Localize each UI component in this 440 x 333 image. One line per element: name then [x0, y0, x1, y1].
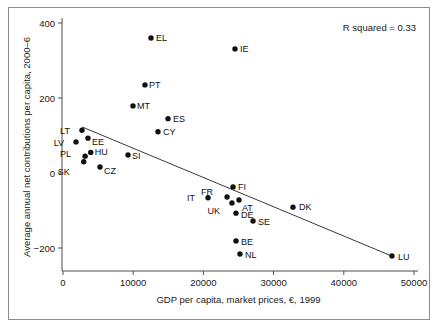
x-axis-tick-label: 40000 — [331, 277, 357, 288]
data-point[interactable]: ES — [165, 114, 185, 124]
data-point-label: PL — [60, 149, 71, 159]
data-point-label: BE — [241, 237, 253, 247]
data-point-marker[interactable] — [250, 218, 255, 223]
data-point-label: FR — [201, 187, 213, 197]
data-point-marker[interactable] — [130, 103, 135, 108]
data-point[interactable]: HU — [88, 147, 108, 157]
data-point[interactable]: CZ — [97, 164, 116, 176]
r-squared-annotation: R squared = 0.33 — [343, 22, 416, 33]
data-point-marker[interactable] — [232, 46, 237, 51]
y-axis-title: Average annual net contributions per cap… — [21, 37, 32, 257]
data-point-label: SE — [258, 217, 270, 227]
data-point-label: EE — [92, 137, 104, 147]
data-point[interactable]: EL — [148, 33, 167, 43]
x-axis-tick-label: 0 — [60, 277, 65, 288]
data-point-label: HU — [95, 147, 108, 157]
data-point-label: UK — [207, 206, 220, 216]
data-point-marker[interactable] — [237, 251, 242, 256]
data-point[interactable]: BE — [233, 237, 253, 247]
data-point-marker[interactable] — [125, 152, 130, 157]
y-axis-tick-label: −200 — [34, 243, 55, 254]
data-point-label: ES — [173, 114, 185, 124]
y-axis-tick-label: 200 — [39, 93, 55, 104]
x-axis-tick-label: 30000 — [260, 277, 286, 288]
data-point-label: IT — [187, 193, 196, 203]
data-point-label: SK — [58, 167, 70, 177]
data-point-marker[interactable] — [165, 116, 170, 121]
data-point-marker[interactable] — [81, 159, 86, 164]
data-point-marker[interactable] — [82, 153, 87, 158]
x-axis-tick-label: 50000 — [401, 277, 427, 288]
data-point-marker[interactable] — [229, 200, 234, 205]
data-point-marker[interactable] — [236, 197, 241, 202]
y-axis-tick-label: 0 — [50, 168, 55, 179]
scatter-plot: −200020040001000020000300004000050000GDP… — [0, 0, 440, 333]
data-point[interactable]: LU — [389, 252, 409, 262]
data-point-marker[interactable] — [85, 135, 90, 140]
data-point-label: LT — [60, 126, 70, 136]
data-point-label: DK — [299, 202, 312, 212]
data-point[interactable]: NL — [237, 250, 256, 260]
data-point[interactable]: LT — [60, 126, 85, 136]
data-point[interactable]: SI — [125, 151, 140, 161]
data-point-label: PT — [149, 80, 161, 90]
data-point-marker[interactable] — [389, 253, 394, 258]
y-axis-tick-label: 400 — [39, 18, 55, 29]
data-point-label: EL — [156, 33, 167, 43]
data-point[interactable]: SE — [250, 217, 270, 227]
data-point-marker[interactable] — [97, 164, 102, 169]
data-point-marker[interactable] — [79, 128, 84, 133]
data-point-marker[interactable] — [233, 210, 238, 215]
data-point-label: NL — [245, 250, 257, 260]
figure-container: −200020040001000020000300004000050000GDP… — [0, 0, 440, 333]
data-point-label: CZ — [104, 166, 116, 176]
data-point-label: CY — [163, 127, 176, 137]
data-point[interactable]: DK — [290, 202, 311, 212]
data-point-marker[interactable] — [142, 82, 147, 87]
data-point-marker[interactable] — [88, 150, 93, 155]
data-point-marker[interactable] — [233, 238, 238, 243]
x-axis-tick-label: 10000 — [120, 277, 146, 288]
data-point-marker[interactable] — [230, 184, 235, 189]
x-axis-title: GDP per capita, market prices, €, 1999 — [156, 294, 320, 305]
data-point-label: LV — [54, 138, 64, 148]
data-point-label: AT — [242, 203, 253, 213]
data-point-marker[interactable] — [155, 129, 160, 134]
data-point-label: FI — [238, 182, 246, 192]
data-point[interactable]: AT — [236, 197, 253, 213]
data-point[interactable]: PT — [142, 80, 161, 90]
data-point[interactable]: PL — [60, 149, 88, 159]
data-point[interactable]: IE — [232, 44, 248, 54]
data-point[interactable]: LV — [54, 138, 79, 148]
data-point[interactable]: EE — [85, 135, 104, 147]
data-point-label: MT — [137, 101, 150, 111]
data-point-marker[interactable] — [148, 35, 153, 40]
data-point-label: LU — [398, 252, 410, 262]
data-point-marker[interactable] — [290, 204, 295, 209]
data-point-marker[interactable] — [224, 194, 229, 199]
data-point-label: SI — [132, 151, 141, 161]
data-point[interactable]: FI — [230, 182, 246, 192]
x-axis-tick-label: 20000 — [190, 277, 216, 288]
data-point[interactable]: MT — [130, 101, 150, 111]
data-point[interactable]: UK — [207, 200, 234, 216]
data-point-marker[interactable] — [73, 139, 78, 144]
data-point-label: IE — [240, 44, 249, 54]
data-point[interactable]: CY — [155, 127, 175, 137]
